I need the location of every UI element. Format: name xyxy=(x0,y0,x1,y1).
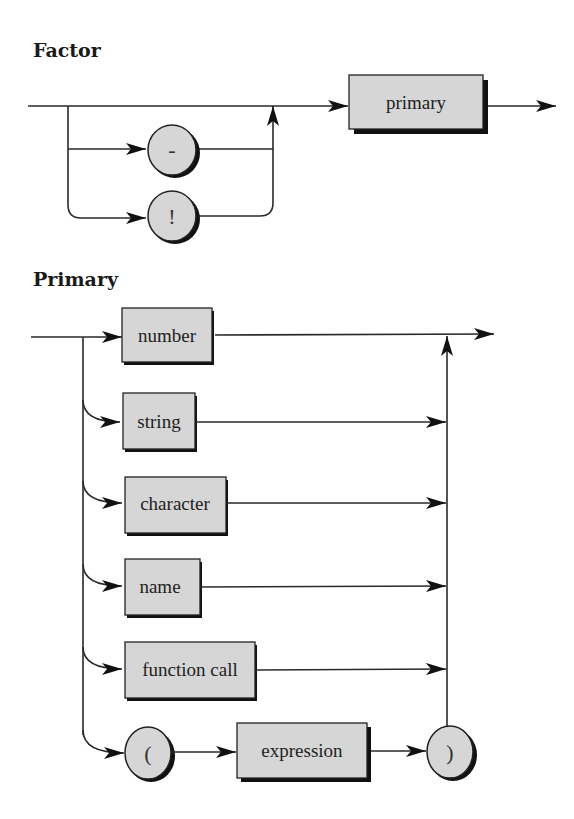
lparen-symbol: ( xyxy=(144,741,151,766)
primary-exit-line xyxy=(215,334,494,335)
string-label: string xyxy=(137,411,181,432)
name-nonterminal: name xyxy=(125,559,202,618)
function-call-nonterminal: function call xyxy=(125,642,257,701)
branch-paren xyxy=(83,730,124,753)
name-out-line xyxy=(200,586,446,587)
syntax-diagrams: Factor - ! primary Primary xyxy=(0,0,574,819)
character-label: character xyxy=(140,493,210,514)
expression-label: expression xyxy=(261,740,343,761)
bang-symbol: ! xyxy=(168,204,175,229)
primary-label: primary xyxy=(386,92,447,113)
function-call-label: function call xyxy=(142,659,238,680)
rparen-terminal: ) xyxy=(427,726,477,781)
branch-string xyxy=(83,400,120,422)
branch-function-call xyxy=(83,647,122,669)
string-nonterminal: string xyxy=(123,393,197,452)
rparen-symbol: ) xyxy=(446,740,453,765)
factor-bang-path xyxy=(68,106,146,218)
bang-terminal: ! xyxy=(148,191,200,244)
branch-name xyxy=(83,564,122,586)
lparen-terminal: ( xyxy=(125,727,175,782)
name-label: name xyxy=(139,576,180,597)
number-nonterminal: number xyxy=(122,308,214,365)
primary-title: Primary xyxy=(33,268,119,290)
factor-merge-up xyxy=(197,106,273,216)
minus-symbol: - xyxy=(168,137,175,162)
expression-nonterminal: expression xyxy=(237,723,371,782)
factor-title: Factor xyxy=(33,39,102,61)
minus-terminal: - xyxy=(148,125,200,178)
primary-diagram: Primary number string cha xyxy=(31,268,494,782)
factor-diagram: Factor - ! primary xyxy=(28,39,556,244)
character-nonterminal: character xyxy=(125,477,228,536)
number-label: number xyxy=(138,325,197,346)
function-call-out-line xyxy=(255,669,446,670)
primary-nonterminal: primary xyxy=(349,75,488,134)
branch-character xyxy=(83,481,122,503)
